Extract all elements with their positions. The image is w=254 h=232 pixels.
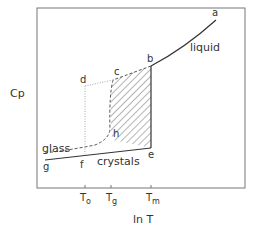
x-axis-label: ln T — [133, 214, 153, 225]
point-e-label: e — [148, 150, 154, 160]
point-b-label: b — [147, 54, 153, 64]
y-axis-label: Cp — [10, 88, 25, 99]
point-g-label: g — [43, 162, 49, 172]
liquid-label: liquid — [190, 42, 220, 53]
crystals-label: crystals — [97, 156, 140, 167]
point-a-label: a — [212, 8, 218, 18]
tick-label-t0: To — [80, 193, 91, 206]
glass-label: glass — [42, 143, 70, 154]
point-h-label: h — [113, 129, 119, 139]
point-d-label: d — [80, 75, 86, 85]
tick-label-tm: Tm — [146, 193, 160, 206]
extrapolated-liquid-line — [85, 80, 113, 86]
tick-label-tg: Tg — [106, 193, 117, 206]
point-f-label: f — [80, 160, 84, 170]
point-c-label: c — [114, 67, 120, 77]
cp-diagram — [0, 0, 254, 232]
